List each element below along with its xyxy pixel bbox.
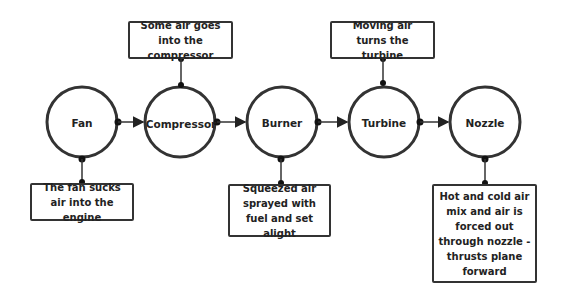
node-label-turbine: Turbine (362, 117, 406, 129)
note-burner: Squeezed air sprayed with fuel and set a… (228, 184, 331, 237)
edge-turbine-nozzle (417, 119, 449, 126)
node-label-compressor: Compressor (146, 118, 217, 130)
edge-compressor-burner (214, 119, 246, 126)
connector-nozzle-note (482, 156, 489, 187)
note-turbine: Moving air turns the turbine (330, 21, 435, 59)
edge-burner-turbine (315, 119, 348, 126)
edge-fan-compressor (115, 119, 144, 126)
node-label-nozzle: Nozzle (466, 117, 505, 129)
node-label-burner: Burner (262, 117, 302, 129)
note-compressor: Some air goes into the compressor (128, 21, 233, 59)
note-nozzle: Hot and cold air mix and air is forced o… (432, 184, 537, 283)
node-label-fan: Fan (71, 117, 92, 129)
note-fan: The fan sucks air into the engine (30, 183, 134, 221)
